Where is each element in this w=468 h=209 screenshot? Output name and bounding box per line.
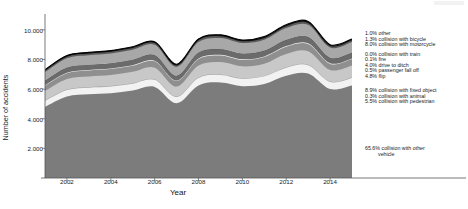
legend-label: collision with motorcycle (379, 41, 436, 47)
x-tick-label: 2004 (104, 178, 118, 185)
legend-item: 65.6% collision with othervehicle (365, 146, 429, 157)
legend-item: 5.5% collision with pedestrian (365, 99, 435, 105)
legend-label: flip (379, 73, 386, 79)
x-tick-label: 2012 (279, 178, 293, 185)
x-tick-label: 2006 (148, 178, 162, 185)
x-axis-title: Year (0, 188, 356, 197)
x-tick-label: 2002 (60, 178, 74, 185)
legend-label-line2: vehicle (365, 152, 429, 158)
legend-share: 8.0% (365, 41, 377, 47)
legend-share: 4.8% (365, 73, 377, 79)
x-tick-label: 2010 (235, 178, 249, 185)
chart-figure: Number of accidents 2.0004.0006.0008.000… (0, 0, 468, 209)
legend-share: 5.5% (365, 98, 377, 104)
legend-label: collision with pedestrian (379, 98, 435, 104)
x-tick-label: 2008 (192, 178, 206, 185)
x-tick-label: 2014 (323, 178, 337, 185)
chart-legend: 1.0% other1.3% collision with bicycle8.0… (357, 0, 468, 209)
legend-item: 8.0% collision with motorcycle (365, 42, 435, 48)
legend-item: 4.8% flip (365, 74, 385, 80)
